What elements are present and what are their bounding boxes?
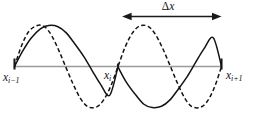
waveform-canvas — [0, 0, 254, 118]
axis-label-x-i-plus-1-subscript: i+1 — [231, 74, 242, 83]
delta-x-label: Δx — [162, 1, 175, 13]
delta-x-arrow — [122, 13, 221, 20]
axis-label-x-i: xi — [104, 70, 111, 83]
delta-x-arrowhead-left — [122, 13, 132, 20]
delta-x-variable: x — [169, 0, 174, 12]
axis-label-x-i-plus-1: xi+1 — [226, 70, 242, 83]
delta-x-arrowhead-right — [212, 13, 222, 20]
axis-label-x-i-subscript: i — [109, 74, 111, 83]
axis-label-x-i-minus-1-subscript: i−1 — [8, 76, 19, 85]
sampling-aliasing-figure: xi−1 xi xi+1 Δx — [0, 0, 254, 118]
axis-label-x-i-minus-1: xi−1 — [3, 72, 19, 85]
